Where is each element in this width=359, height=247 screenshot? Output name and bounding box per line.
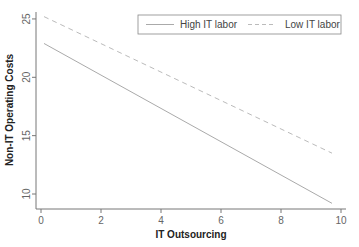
y-ticks: 10152025 [21, 13, 36, 200]
svg-text:25: 25 [21, 13, 32, 25]
svg-text:15: 15 [21, 130, 32, 142]
svg-text:2: 2 [98, 215, 104, 226]
x-ticks: 0246810 [38, 209, 347, 226]
legend-item-low: Low IT labor [285, 19, 341, 30]
svg-text:6: 6 [218, 215, 224, 226]
series-lines [44, 17, 332, 204]
svg-text:10: 10 [21, 188, 32, 200]
svg-text:20: 20 [21, 71, 32, 83]
chart: 0246810 10152025 IT Outsourcing Non-IT O… [0, 0, 359, 247]
svg-text:10: 10 [335, 215, 347, 226]
legend: High IT labor Low IT labor [138, 15, 341, 34]
legend-item-high: High IT labor [180, 19, 238, 30]
svg-text:8: 8 [278, 215, 284, 226]
y-axis-label: Non-IT Operating Costs [4, 53, 15, 166]
x-axis-label: IT Outsourcing [155, 229, 226, 240]
svg-text:0: 0 [38, 215, 44, 226]
svg-text:4: 4 [158, 215, 164, 226]
